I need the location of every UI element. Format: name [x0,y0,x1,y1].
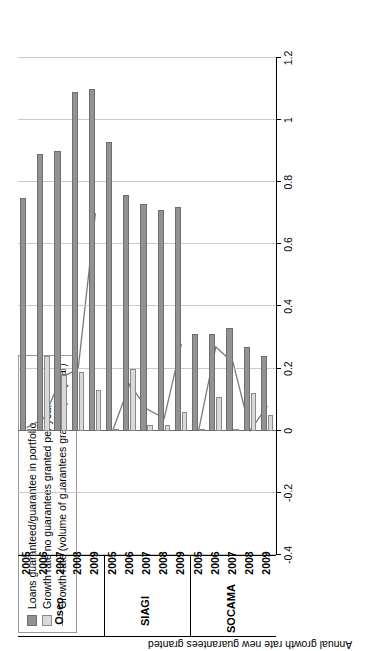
category-axis-label: 2006 [209,541,221,585]
gridline [18,492,276,493]
bar-loans-guaranteed [192,334,198,430]
value-axis-tick [276,492,281,493]
category-axis-label: 2005 [192,541,204,585]
value-axis-tick [276,368,281,369]
bar-loans-guaranteed [37,154,43,430]
group-axis-label: SIAGI [139,589,151,633]
category-axis-label: 2009 [174,541,186,585]
category-axis-label: 2006 [37,541,49,585]
value-axis-tick [276,181,281,182]
bar-growth-rate-number [96,390,102,430]
bar-growth-rate-number [130,369,136,431]
chart-figure: Loans guaranteed/guarantee in portfolio … [0,0,382,651]
legend-swatch-light-bar [42,615,52,626]
bar-loans-guaranteed [106,142,112,431]
bar-growth-rate-number [147,425,153,431]
bar-loans-guaranteed [175,207,181,431]
value-axis-tick-label: -0.4 [283,535,294,575]
bar-loans-guaranteed [72,92,78,431]
gridline [18,119,276,120]
value-axis-tick-label: 0.8 [283,162,294,202]
bar-loans-guaranteed [54,151,60,431]
bar-growth-rate-number [44,356,50,431]
value-axis-tick-label: 0.6 [283,224,294,264]
value-axis-title: Annual growth rate new guarantees grante… [148,639,352,651]
value-axis-tick [276,554,281,555]
category-axis-label: 2008 [71,541,83,585]
legend-swatch-dark-bar [27,615,37,626]
bar-loans-guaranteed [158,210,164,431]
bar-loans-guaranteed [123,195,129,431]
value-axis-tick-label: 0 [283,411,294,451]
bar-loans-guaranteed [140,204,146,431]
bar-growth-rate-number [79,372,85,431]
value-axis-tick [276,430,281,431]
bar-growth-rate-number [216,397,222,431]
bar-growth-rate-number [165,425,171,431]
bar-growth-rate-number [113,429,119,431]
bar-growth-rate-number [268,415,274,431]
bar-loans-guaranteed [89,89,95,431]
category-axis-label: 2007 [54,541,66,585]
bar-loans-guaranteed [209,334,215,430]
value-axis-tick [276,119,281,120]
bar-loans-guaranteed [226,328,232,431]
category-axis-label: 2009 [88,541,100,585]
category-axis-label: 2007 [140,541,152,585]
value-axis-tick-label: 1.2 [283,38,294,78]
group-axis-label: Oseo [53,589,65,633]
category-axis-label: 2008 [243,541,255,585]
gridline [18,57,276,58]
category-axis-label: 2006 [123,541,135,585]
group-axis-spine [18,636,276,637]
value-axis-line [276,58,277,555]
category-axis-spine [18,555,276,556]
category-axis-label: 2005 [106,541,118,585]
value-axis-tick [276,57,281,58]
bar-growth-rate-number [199,429,205,431]
bar-growth-rate-number [182,412,188,431]
category-axis-label: 2005 [20,541,32,585]
value-axis-tick [276,306,281,307]
bar-loans-guaranteed [261,356,267,431]
value-axis-tick [276,243,281,244]
plot-area [18,58,276,555]
category-axis-label: 2008 [157,541,169,585]
value-axis-tick-label: 0.2 [283,349,294,389]
value-axis-tick-label: 0.4 [283,287,294,327]
group-separator [104,555,105,637]
bar-growth-rate-number [251,393,257,430]
value-axis-tick-label: 1 [283,100,294,140]
group-separator [190,555,191,637]
bar-growth-rate-number [233,429,239,431]
bar-loans-guaranteed [244,347,250,431]
group-axis-label: SOCAMA [225,589,237,633]
category-axis-label: 2007 [226,541,238,585]
bar-growth-rate-number [61,375,67,431]
bar-growth-rate-number [27,429,33,431]
chart-figure-frame: Loans guaranteed/guarantee in portfolio … [0,0,382,651]
category-axis-label: 2009 [260,541,272,585]
bar-loans-guaranteed [20,198,26,431]
value-axis-tick-label: -0.2 [283,473,294,513]
